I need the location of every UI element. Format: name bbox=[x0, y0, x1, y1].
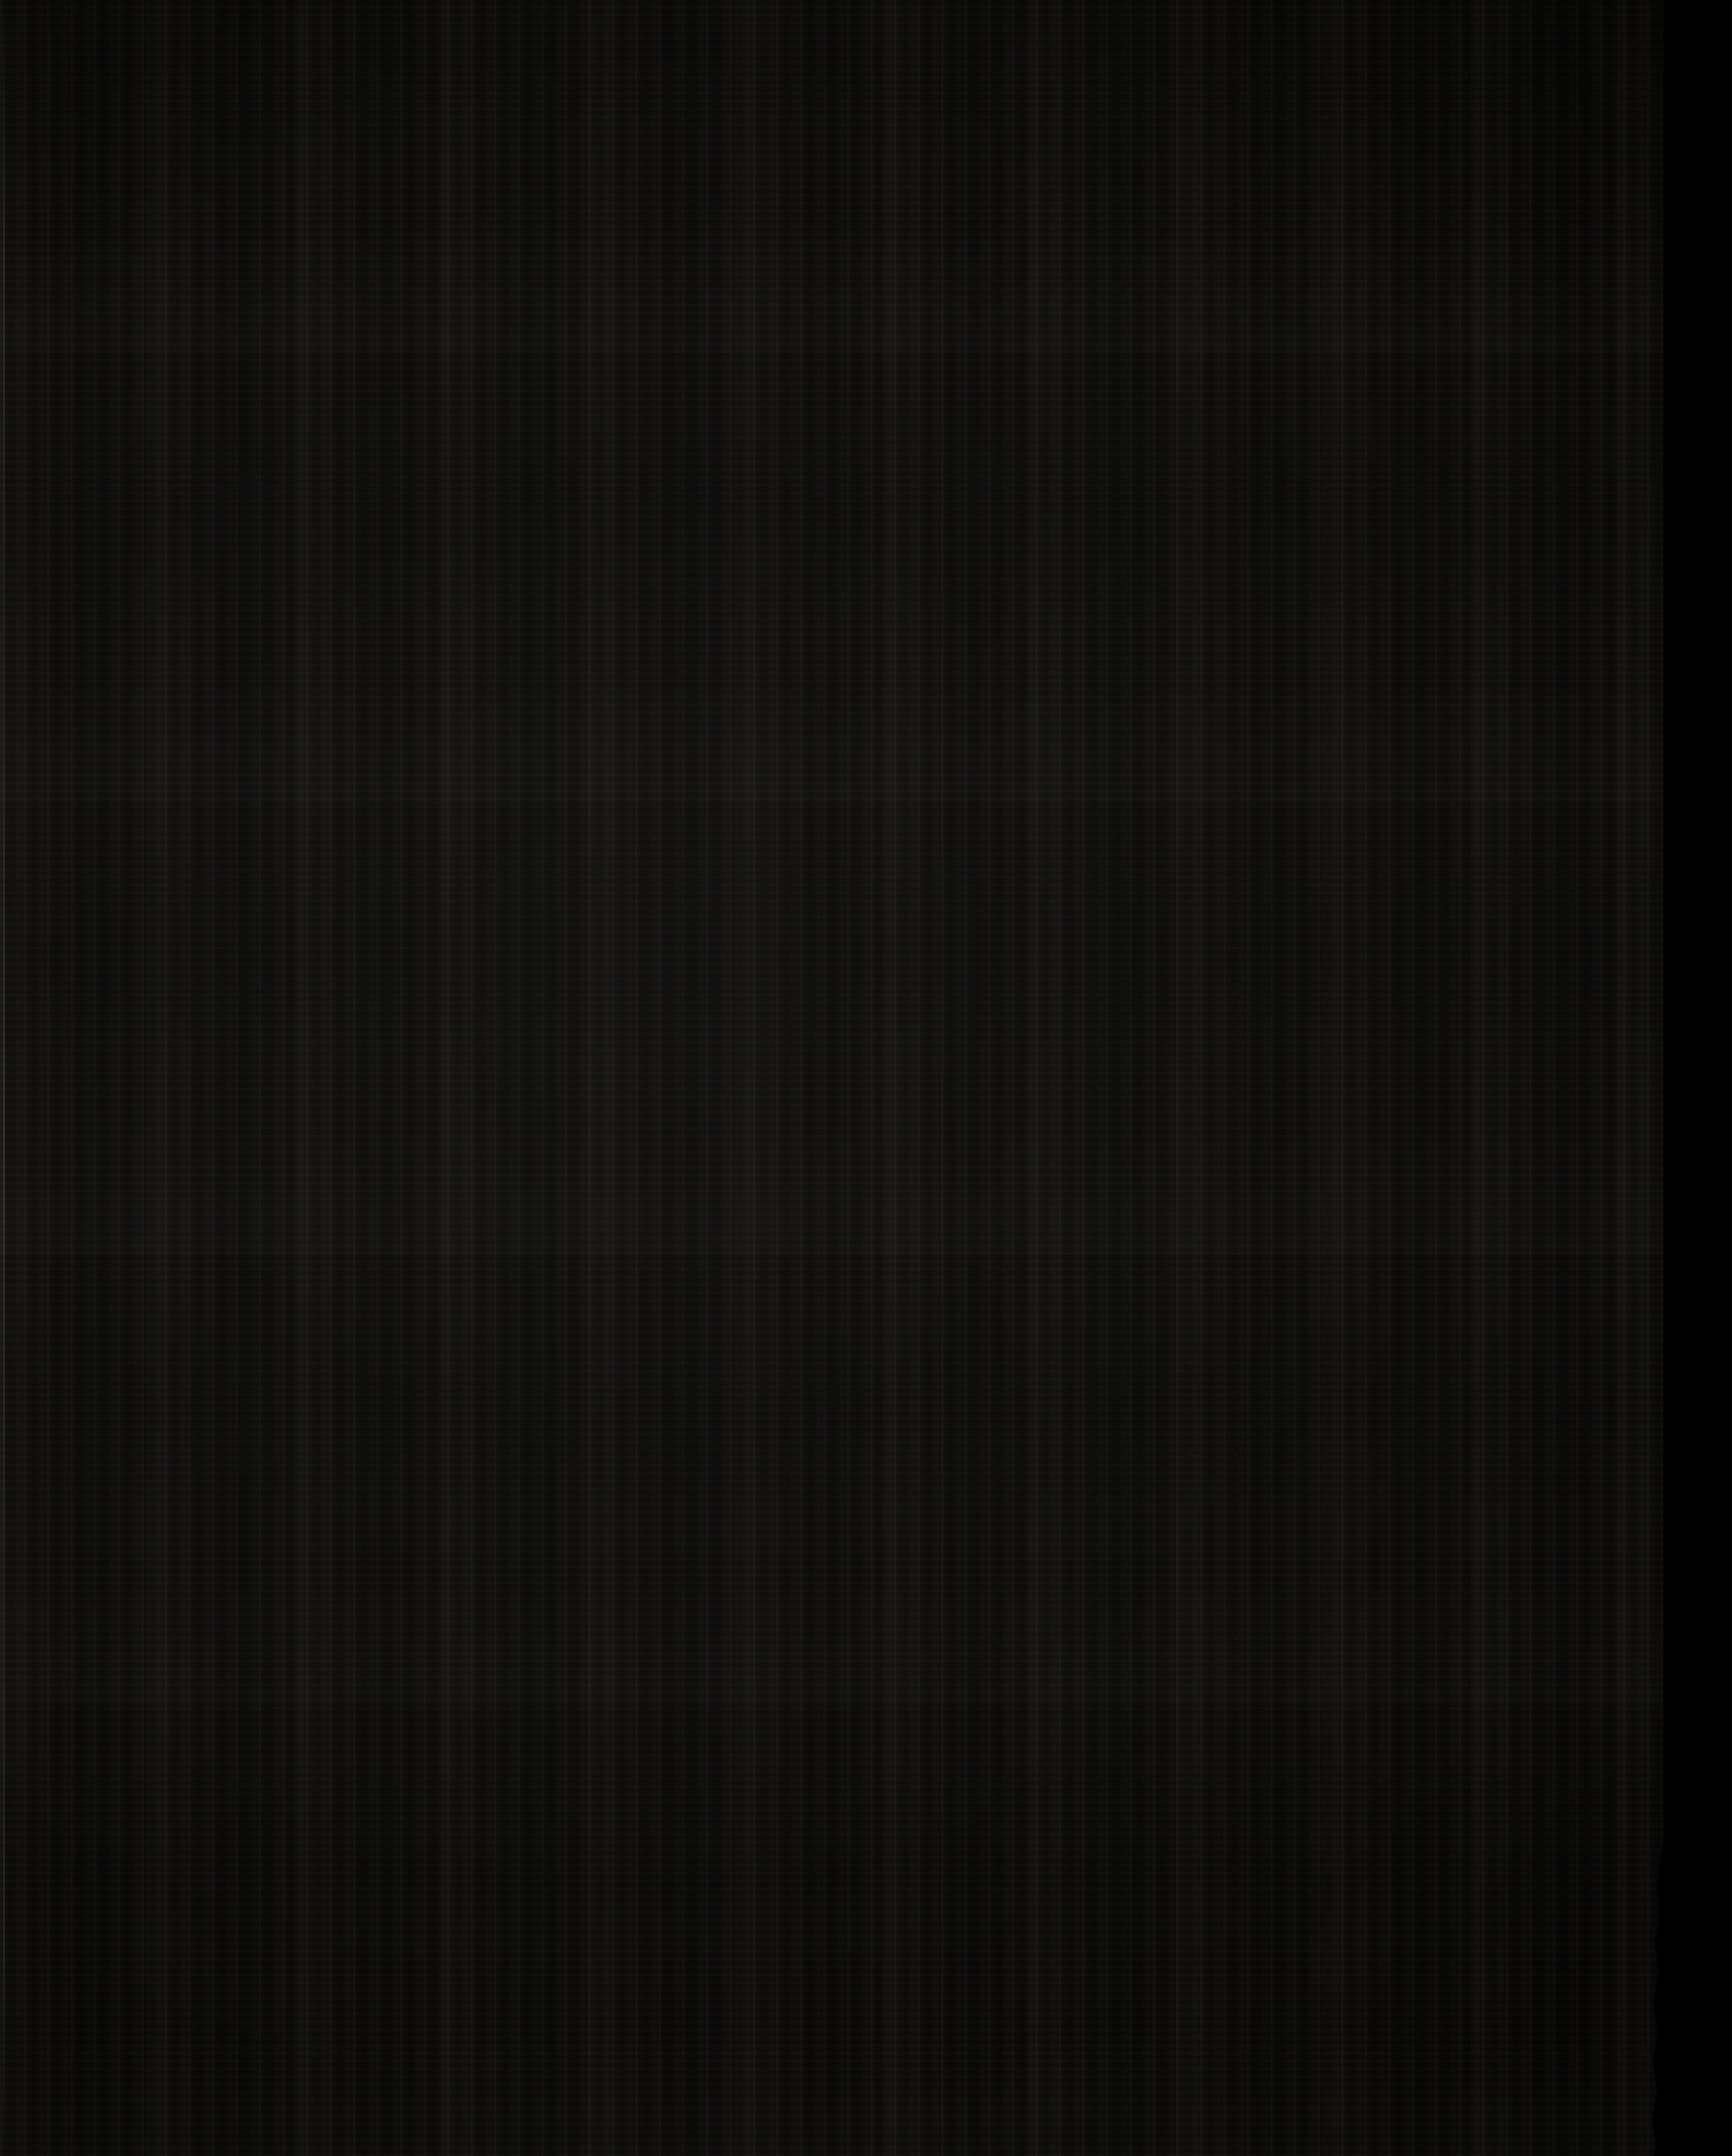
illumination-gradient bbox=[0, 0, 1678, 2156]
scanner-void bbox=[1663, 0, 1732, 2156]
scan-banding bbox=[0, 0, 1678, 2156]
weave-rib-texture bbox=[0, 0, 1678, 2156]
scanned-page bbox=[0, 0, 1732, 2156]
weave-weft-texture bbox=[0, 0, 1678, 2156]
weave-band-shading bbox=[0, 0, 1678, 2156]
sensor-grain bbox=[0, 0, 1678, 2156]
material-body bbox=[0, 0, 1678, 2156]
